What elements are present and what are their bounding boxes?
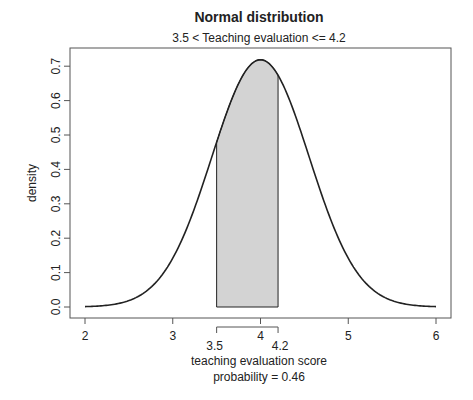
region-upper-label: 4.2 [272,339,289,353]
normal-distribution-chart: Normal distribution 3.5 < Teaching evalu… [0,0,473,400]
x-tick-label: 6 [433,329,440,343]
y-tick-label: 0.1 [49,264,63,281]
probability-annotation: probability = 0.46 [213,370,305,384]
y-tick-label: 0.5 [49,126,63,143]
x-axis-label: teaching evaluation score [191,354,327,368]
chart-subtitle: 3.5 < Teaching evaluation <= 4.2 [172,31,346,45]
x-tick-label: 3 [169,329,176,343]
y-axis-label: density [25,164,39,202]
x-tick-label: 2 [82,329,89,343]
y-tick-label: 0.4 [49,161,63,178]
x-tick-label: 4 [257,329,264,343]
shaded-area [217,60,278,307]
x-tick-label: 5 [345,329,352,343]
region-bracket: 3.54.2 [206,327,288,353]
y-tick-label: 0.3 [49,195,63,212]
chart-title: Normal distribution [194,9,323,25]
y-tick-label: 0.2 [49,230,63,247]
y-tick-label: 0.7 [49,58,63,75]
y-tick-label: 0.0 [49,298,63,315]
shaded-probability-region [217,60,278,307]
region-lower-label: 3.5 [206,339,223,353]
y-axis: 0.00.10.20.30.40.50.60.7 [49,58,70,316]
y-tick-label: 0.6 [49,92,63,109]
x-axis: 23456 [82,318,440,343]
bracket-line [217,327,278,333]
